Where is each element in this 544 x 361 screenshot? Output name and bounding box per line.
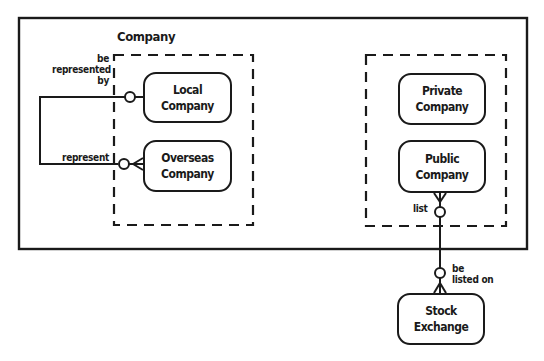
label-line: represented — [52, 64, 109, 75]
entity-private-company[interactable]: Private Company — [398, 73, 486, 125]
entity-local-company[interactable]: Local Company — [143, 72, 232, 123]
entity-label-line1: Public — [425, 151, 459, 167]
entity-label-line2: Company — [161, 166, 214, 182]
entity-label-line2: Company — [416, 99, 469, 115]
label-line: be — [452, 263, 493, 274]
entity-label-line1: Private — [422, 83, 462, 99]
entity-label-line2: Company — [161, 98, 214, 114]
entity-overseas-company[interactable]: Overseas Company — [143, 140, 232, 192]
entity-label-line1: Local — [173, 82, 202, 98]
label-line: by — [52, 75, 109, 86]
label-line: listed on — [452, 274, 493, 285]
entity-label-line2: Exchange — [414, 319, 468, 335]
relationship-label-represent: represent — [62, 152, 109, 163]
relationship-label-be-represented-by: be represented by — [52, 53, 109, 86]
relationship-label-list: list — [413, 203, 428, 214]
entity-label-line1: Overseas — [161, 150, 213, 166]
listing-relationship-line — [434, 193, 446, 293]
company-supertype-label: Company — [117, 31, 175, 42]
entity-label-line1: Stock — [425, 303, 456, 319]
relationship-label-be-listed-on: be listed on — [452, 263, 493, 285]
entity-label-line2: Company — [416, 167, 469, 183]
entity-stock-exchange[interactable]: Stock Exchange — [397, 293, 485, 345]
entity-public-company[interactable]: Public Company — [398, 140, 486, 193]
label-line: be — [52, 53, 109, 64]
